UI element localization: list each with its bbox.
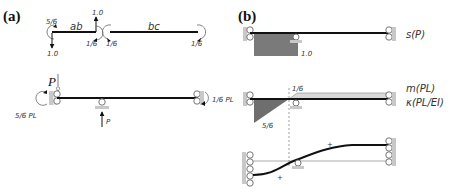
free-body-segment-bc: bc 1/6 1/6 bbox=[102, 21, 205, 48]
shear-diagram: 1.0 s(P) bbox=[243, 27, 425, 58]
moment-label: m(PL) bbox=[406, 83, 435, 94]
reaction-moment-icon bbox=[205, 92, 208, 104]
shear-label: s(P) bbox=[406, 29, 425, 40]
shear-area bbox=[254, 32, 298, 56]
free-body-segment-ab: 5/6 1.0 ab 1.0 1/6 bbox=[46, 9, 104, 58]
panel-b-label: (b) bbox=[238, 8, 256, 25]
curvature-label: κ(PL/EI) bbox=[406, 97, 444, 108]
label-ab-left-force: 1.0 bbox=[47, 50, 59, 58]
deflection-sign-lower: + bbox=[277, 174, 283, 182]
panel-a-label: (a) bbox=[3, 8, 21, 25]
load-label: P bbox=[47, 74, 56, 89]
moment-arc-icon bbox=[197, 25, 206, 39]
deflected-shape bbox=[253, 145, 389, 175]
label-bc-right-moment: 1/6 bbox=[191, 40, 203, 48]
deflection-diagram: + + bbox=[242, 138, 396, 186]
loaded-structure: P 5/6 PL P 1/6 PL bbox=[15, 74, 234, 127]
left-wall bbox=[49, 91, 53, 105]
moment-bottom-value: 5/6 bbox=[262, 122, 274, 130]
label-ab: ab bbox=[70, 21, 82, 32]
moment-arc-icon bbox=[96, 26, 103, 40]
structural-diagram: (a) 5/6 1.0 ab 1.0 1/6 bc 1/6 1/6 P bbox=[0, 0, 452, 193]
shear-value-label: 1.0 bbox=[301, 50, 313, 58]
negative-moment-area bbox=[254, 99, 289, 123]
roller-support bbox=[99, 99, 105, 105]
label-ab-right-force: 1.0 bbox=[92, 9, 104, 17]
right-reaction-label: 1/6 PL bbox=[212, 96, 234, 104]
left-reaction-label: 5/6 PL bbox=[15, 112, 37, 120]
label-ab-left-moment: 5/6 bbox=[46, 18, 58, 26]
label-bc-left-moment: 1/6 bbox=[106, 40, 118, 48]
label-ab-right-moment: 1/6 bbox=[86, 40, 98, 48]
support-reaction-label: P bbox=[106, 118, 111, 126]
deflection-sign-upper: + bbox=[327, 141, 333, 149]
moment-top-value: 1/6 bbox=[292, 85, 304, 93]
moment-diagram: 1/6 5/6 m(PL) κ(PL/EI) bbox=[243, 83, 444, 130]
moment-arc-icon bbox=[102, 25, 111, 39]
label-bc: bc bbox=[148, 21, 160, 32]
